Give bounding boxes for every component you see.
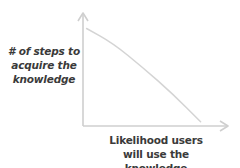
y-axis-label-line: knowledge xyxy=(6,72,82,86)
x-axis-label: Likelihood users will use the knowledge xyxy=(94,133,218,168)
x-axis-label-line: will use the knowledge xyxy=(94,147,218,168)
x-axis-label-line: Likelihood users xyxy=(94,133,218,147)
y-axis-label-line: acquire the xyxy=(6,58,82,72)
y-axis-label: # of steps to acquire the knowledge xyxy=(6,44,82,86)
y-axis-label-line: # of steps to xyxy=(6,44,82,58)
data-line xyxy=(87,29,201,122)
